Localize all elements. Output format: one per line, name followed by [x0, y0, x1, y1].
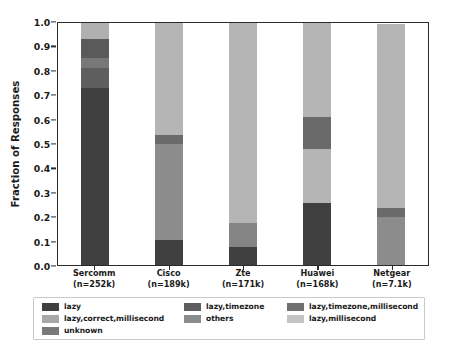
y-tick-mark [51, 70, 56, 71]
bar-segment[interactable] [229, 247, 257, 265]
x-tick-sublabel: (n=189k) [131, 279, 205, 290]
bar-segment[interactable] [155, 240, 183, 265]
legend-swatch [184, 315, 201, 323]
x-tick-mark [94, 266, 95, 270]
bar-segment[interactable] [303, 203, 331, 265]
x-tick-sublabel: (n=168k) [280, 279, 354, 290]
x-tick-label: Sercomm(n=252k) [57, 268, 131, 289]
y-tick-label: 0.3 [22, 187, 50, 198]
legend-swatch [42, 315, 59, 323]
y-tick-label: 0.0 [22, 261, 50, 272]
legend-item[interactable]: unknown [42, 326, 103, 335]
stacked-bar[interactable] [81, 23, 109, 265]
y-tick-label: 1.0 [22, 17, 50, 28]
x-tick-mark [392, 266, 393, 270]
chart-figure: Fraction of Responses 0.00.10.20.30.40.5… [0, 0, 456, 345]
y-tick-mark [51, 46, 56, 47]
y-tick-mark [51, 119, 56, 120]
legend-label: others [206, 314, 233, 323]
legend-swatch [184, 303, 201, 311]
y-tick-label: 0.5 [22, 139, 50, 150]
y-tick-mark [51, 241, 56, 242]
y-tick-mark [51, 192, 56, 193]
legend-swatch [287, 303, 304, 311]
bar-slot [58, 23, 132, 265]
bar-slot [206, 23, 280, 265]
x-tick-label: Huawei(n=168k) [280, 268, 354, 289]
legend-swatch [287, 315, 304, 323]
x-tick-mark [317, 266, 318, 270]
x-tick-mark [169, 266, 170, 270]
y-tick-label: 0.4 [22, 163, 50, 174]
y-tick-mark [51, 143, 56, 144]
bar-segment[interactable] [229, 23, 257, 223]
bar-segment[interactable] [155, 23, 183, 135]
legend: lazylazy,timezonelazy,timezone,milliseco… [33, 297, 425, 340]
legend-label: unknown [64, 326, 103, 335]
plot-area [57, 22, 429, 266]
legend-item[interactable]: lazy,millisecond [287, 314, 376, 323]
x-tick-label: Netgear(n=7.1k) [355, 268, 429, 289]
y-tick-label: 0.2 [22, 212, 50, 223]
bar-slot [354, 23, 428, 265]
legend-swatch [42, 303, 59, 311]
y-tick-mark [51, 21, 56, 22]
bar-segment[interactable] [377, 24, 405, 208]
x-tick-label: Zte(n=171k) [206, 268, 280, 289]
bar-slot [132, 23, 206, 265]
stacked-bar[interactable] [229, 23, 257, 265]
legend-item[interactable]: others [184, 314, 233, 323]
legend-label: lazy,millisecond [309, 314, 376, 323]
bar-segment[interactable] [81, 39, 109, 58]
bar-segment[interactable] [81, 68, 109, 89]
y-tick-mark [51, 168, 56, 169]
y-tick-mark [51, 265, 56, 266]
stacked-bar[interactable] [377, 23, 405, 265]
x-tick-label: Cisco(n=189k) [131, 268, 205, 289]
bars-layer [58, 23, 428, 265]
legend-label: lazy,timezone,millisecond [309, 302, 418, 311]
legend-label: lazy [64, 302, 81, 311]
bar-segment[interactable] [377, 217, 405, 265]
y-tick-label: 0.8 [22, 65, 50, 76]
x-tick-sublabel: (n=171k) [206, 279, 280, 290]
y-tick-mark [51, 217, 56, 218]
legend-item[interactable]: lazy,correct,millisecond [42, 314, 164, 323]
bar-segment[interactable] [303, 23, 331, 117]
bar-segment[interactable] [81, 23, 109, 39]
legend-item[interactable]: lazy [42, 302, 81, 311]
bar-segment[interactable] [229, 223, 257, 247]
x-axis-ticks: Sercomm(n=252k)Cisco(n=189k)Zte(n=171k)H… [57, 268, 429, 294]
legend-item[interactable]: lazy,timezone [184, 302, 264, 311]
y-tick-label: 0.6 [22, 114, 50, 125]
legend-label: lazy,timezone [206, 302, 264, 311]
y-tick-label: 0.7 [22, 90, 50, 101]
bar-slot [280, 23, 354, 265]
legend-label: lazy,correct,millisecond [64, 314, 164, 323]
bar-segment[interactable] [303, 117, 331, 148]
y-tick-label: 0.9 [22, 41, 50, 52]
legend-swatch [42, 327, 59, 335]
y-tick-label: 0.1 [22, 236, 50, 247]
legend-item[interactable]: lazy,timezone,millisecond [287, 302, 418, 311]
x-tick-mark [243, 266, 244, 270]
bar-segment[interactable] [303, 149, 331, 203]
bar-segment[interactable] [81, 88, 109, 265]
bar-segment[interactable] [155, 135, 183, 144]
y-tick-mark [51, 95, 56, 96]
stacked-bar[interactable] [155, 23, 183, 265]
x-tick-sublabel: (n=252k) [57, 279, 131, 290]
x-tick-sublabel: (n=7.1k) [355, 279, 429, 290]
bar-segment[interactable] [377, 208, 405, 216]
stacked-bar[interactable] [303, 23, 331, 265]
bar-segment[interactable] [81, 58, 109, 68]
bar-segment[interactable] [155, 144, 183, 240]
